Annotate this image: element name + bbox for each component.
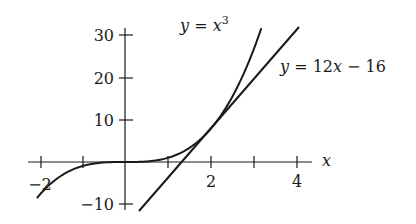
cubic-label-exp: 3 [222,14,229,27]
axes [28,28,312,210]
cubic-curve [37,28,261,198]
tangent-label: y = 12x − 16 [279,57,386,76]
x-axis-label: x [322,151,331,170]
y-tick-label-30: 30 [94,26,114,45]
tangent-line-diagram: 30 20 10 −10 −2 2 4 x y = x3 y = 12x − 1… [0,0,416,224]
cubic-label: y = x3 [179,14,229,35]
y-tick-label-20: 20 [94,69,114,88]
tangent-label-var: x [333,57,342,76]
x-tick-label-2: 2 [206,172,216,191]
cubic-label-eq: = [189,16,213,35]
tangent-label-eq: = 12 [289,57,333,76]
cubic-label-var: x [213,16,222,35]
x-tick-label-4: 4 [292,172,302,191]
tangent-label-rest: − 16 [342,57,386,76]
y-tick-label-10: 10 [94,111,114,130]
tangent-line [139,27,299,211]
y-tick-label-neg10: −10 [80,195,114,214]
x-tick-label-neg2: −2 [28,175,52,194]
